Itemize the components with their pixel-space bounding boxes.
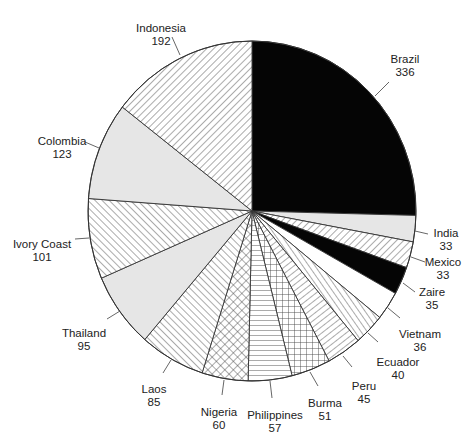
slice-label-name: Burma bbox=[308, 397, 342, 410]
slice-label-name: Thailand bbox=[62, 327, 106, 340]
slice-label-value: 35 bbox=[419, 299, 445, 312]
slice-label: Vietnam36 bbox=[399, 328, 441, 354]
slice-label: India33 bbox=[434, 227, 459, 253]
slice-label-value: 33 bbox=[434, 240, 459, 253]
slice-label: Burma51 bbox=[308, 397, 342, 423]
slice-label: Zaire35 bbox=[419, 286, 445, 312]
slice-label: Colombia123 bbox=[38, 135, 87, 161]
slice-label-name: Brazil bbox=[391, 53, 420, 66]
slice-label: Brazil336 bbox=[391, 53, 420, 79]
slice-label-value: 85 bbox=[142, 396, 167, 409]
leader-line bbox=[163, 360, 171, 373]
slice-label: Nigeria60 bbox=[201, 406, 237, 432]
slice-label-name: Mexico bbox=[425, 256, 461, 269]
leader-line bbox=[85, 142, 99, 148]
slice-label-value: 95 bbox=[62, 340, 106, 353]
leader-line bbox=[270, 381, 272, 398]
slice-label-name: Colombia bbox=[38, 135, 87, 148]
leader-line bbox=[375, 82, 389, 96]
slice-label-value: 36 bbox=[399, 341, 441, 354]
slice-label-value: 51 bbox=[308, 410, 342, 423]
slice-label: Mexico33 bbox=[425, 256, 461, 282]
slice-label-value: 45 bbox=[352, 393, 376, 406]
leader-line bbox=[368, 333, 378, 342]
slice-label-name: Peru bbox=[352, 380, 376, 393]
slice-label-name: Zaire bbox=[419, 286, 445, 299]
slice-label-name: Ecuador bbox=[377, 356, 420, 369]
slice-label: Ecuador40 bbox=[377, 356, 420, 382]
slice-label-value: 336 bbox=[391, 66, 420, 79]
slice-label-value: 40 bbox=[377, 369, 420, 382]
leader-line bbox=[411, 257, 425, 262]
slice-label-name: Ivory Coast bbox=[13, 238, 71, 251]
slice-label: Thailand95 bbox=[62, 327, 106, 353]
leader-line bbox=[75, 238, 89, 239]
leader-line bbox=[388, 308, 400, 318]
slice-label: Peru45 bbox=[352, 380, 376, 406]
leader-line bbox=[415, 231, 428, 234]
slice-label-name: Indonesia bbox=[136, 22, 186, 35]
slice-label-value: 192 bbox=[136, 35, 186, 48]
slice-label: Laos85 bbox=[142, 383, 167, 409]
slice-label-name: Nigeria bbox=[201, 406, 237, 419]
slice-label-name: Vietnam bbox=[399, 328, 441, 341]
slice-label-value: 60 bbox=[201, 419, 237, 432]
slice-label: Philippines57 bbox=[247, 409, 303, 435]
slice-label-name: India bbox=[434, 227, 459, 240]
leader-line bbox=[107, 311, 120, 319]
slice-label-value: 101 bbox=[13, 251, 71, 264]
slice-label-value: 33 bbox=[425, 269, 461, 282]
slice-label-name: Laos bbox=[142, 383, 167, 396]
slice-label-name: Philippines bbox=[247, 409, 303, 422]
leader-line bbox=[310, 372, 318, 386]
slice-label-value: 57 bbox=[247, 422, 303, 435]
pie-slices bbox=[88, 41, 416, 381]
leader-line bbox=[343, 356, 352, 367]
slice-label-value: 123 bbox=[38, 148, 87, 161]
slice-label: Ivory Coast101 bbox=[13, 238, 71, 264]
leader-line bbox=[403, 283, 415, 292]
leader-line bbox=[222, 380, 224, 395]
slice-label: Indonesia192 bbox=[136, 22, 186, 48]
